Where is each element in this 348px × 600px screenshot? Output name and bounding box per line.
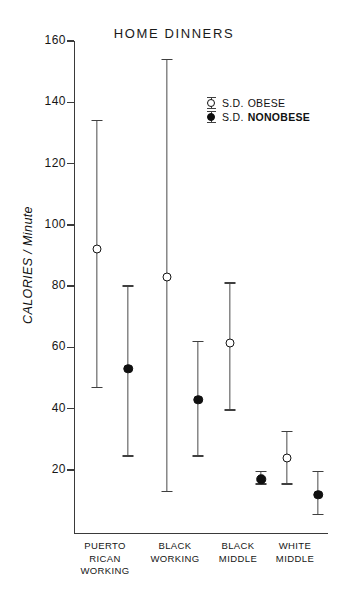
open-circle-icon	[205, 96, 218, 110]
error-bar-cap-upper	[193, 341, 204, 343]
y-tick-mark	[67, 408, 74, 409]
data-point-marker	[226, 338, 235, 347]
legend-series-name: NONOBESE	[248, 110, 311, 124]
x-axis-category-label: WHITEMIDDLE	[253, 540, 337, 565]
y-tick-label: 40	[26, 401, 66, 415]
legend-sd-text: S.D.	[222, 110, 244, 124]
error-bar-cap-upper	[282, 431, 293, 433]
y-tick-label: 100	[26, 217, 66, 231]
error-bar-cap-lower	[92, 387, 103, 389]
legend-item-nonobese: S.D.NONOBESE	[205, 110, 310, 124]
legend-item-obese: S.D.OBESE	[205, 96, 310, 110]
error-bar-line	[96, 121, 97, 388]
data-point-marker	[313, 490, 323, 500]
y-tick-label: 80	[26, 278, 66, 292]
error-bar-cap-upper	[92, 120, 103, 122]
category-label-line: WORKING	[63, 565, 147, 578]
error-bar-cap-lower	[193, 455, 204, 457]
category-label-line: MIDDLE	[253, 553, 337, 566]
data-point-marker	[256, 474, 266, 484]
error-bar-cap-lower	[123, 455, 134, 457]
y-tick-mark	[67, 347, 74, 348]
y-tick-mark	[67, 469, 74, 470]
error-bar-cap-upper	[256, 471, 267, 473]
legend-series-name: OBESE	[248, 96, 286, 110]
chart-legend: S.D.OBESES.D.NONOBESE	[205, 96, 310, 124]
error-bar-cap-upper	[123, 285, 134, 287]
y-tick-label: 140	[26, 94, 66, 108]
y-tick-mark	[67, 285, 74, 286]
error-bar-cap-lower	[282, 483, 293, 485]
chart-figure: HOME DINNERS CALORIES / Minute 204060801…	[0, 0, 348, 600]
error-bar-cap-lower	[225, 409, 236, 411]
x-axis-line	[74, 533, 328, 534]
legend-sd-text: S.D.	[222, 96, 244, 110]
y-tick-label: 60	[26, 339, 66, 353]
category-label-line: WHITE	[253, 540, 337, 553]
y-tick-label: 160	[26, 33, 66, 47]
data-point-marker	[163, 272, 172, 281]
y-tick-label: 20	[26, 462, 66, 476]
y-tick-mark	[67, 102, 74, 103]
data-point-marker	[193, 395, 203, 405]
y-tick-mark	[67, 224, 74, 225]
data-point-marker	[123, 364, 133, 374]
y-tick-label: 120	[26, 156, 66, 170]
error-bar-cap-upper	[225, 282, 236, 284]
y-axis-line	[74, 41, 75, 534]
error-bar-cap-upper	[313, 471, 324, 473]
error-bar-cap-upper	[162, 59, 173, 61]
error-bar-cap-lower	[313, 514, 324, 516]
y-tick-mark	[67, 40, 74, 41]
data-point-marker	[93, 245, 102, 254]
error-bar-cap-lower	[162, 491, 173, 493]
plot-area: 20406080100120140160 PUERTORICANWORKINGB…	[0, 0, 348, 600]
data-point-marker	[283, 453, 292, 462]
y-tick-mark	[67, 163, 74, 164]
filled-circle-icon	[205, 110, 218, 124]
